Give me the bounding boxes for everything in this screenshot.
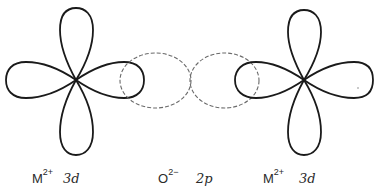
ion-charge: 2− — [168, 167, 178, 177]
orbital-name: 2p — [196, 171, 213, 186]
right-metal-3d-orbital — [235, 10, 373, 155]
p-lobe-right — [190, 53, 259, 108]
right-d-lobe-left — [235, 62, 304, 98]
left-metal-ion-label: M2+ — [32, 172, 53, 185]
left-d-lobe-bottom — [60, 80, 93, 155]
ion-charge: 2+ — [43, 167, 53, 177]
left-d-lobe-right — [76, 62, 144, 98]
right-metal-ion-label: M2+ — [263, 172, 284, 185]
right-d-lobe-top — [288, 10, 321, 80]
orbital-name: 3d — [63, 171, 80, 186]
oxygen-orbital-label: 2p — [196, 172, 213, 185]
oxygen-ion-label: O2− — [158, 172, 178, 185]
orbital-name: 3d — [299, 171, 316, 186]
left-metal-orbital-label: 3d — [63, 172, 80, 185]
right-d-lobe-right — [304, 62, 373, 98]
ion-symbol: M — [32, 171, 43, 186]
left-d-lobe-top — [60, 8, 93, 80]
right-d-lobe-bottom — [288, 80, 321, 155]
right-metal-orbital-label: 3d — [299, 172, 316, 185]
p-lobe-left — [120, 53, 191, 108]
scan-artifact-dot — [357, 87, 359, 89]
left-metal-3d-orbital — [6, 8, 144, 155]
ion-charge: 2+ — [274, 167, 284, 177]
left-d-lobe-left — [6, 62, 76, 98]
oxygen-2p-orbital — [120, 53, 259, 108]
orbital-diagram — [0, 0, 380, 189]
ion-symbol: O — [158, 171, 168, 186]
ion-symbol: M — [263, 171, 274, 186]
